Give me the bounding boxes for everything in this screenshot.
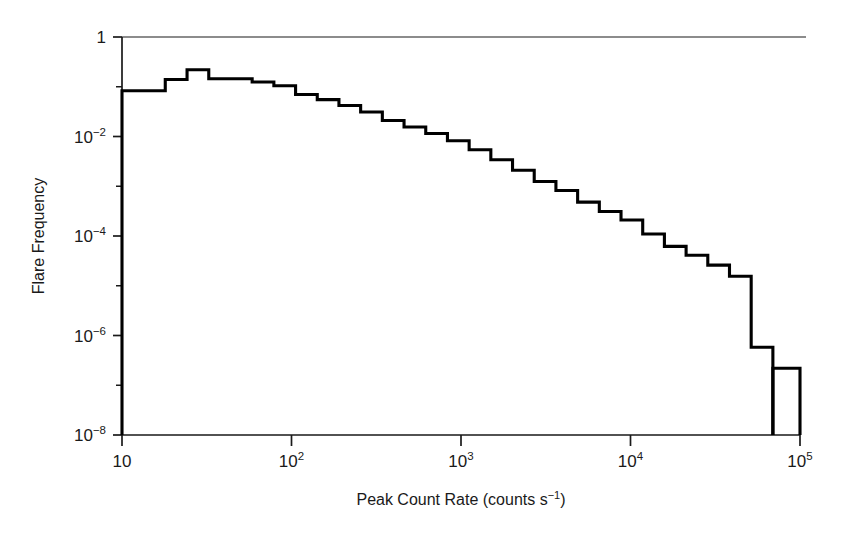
flare-frequency-chart: 110−210−410−610−810102103104105 Peak Cou…: [0, 0, 856, 533]
y-axis-title: Flare Frequency: [30, 178, 47, 295]
figure-container: 110−210−410−610−810102103104105 Peak Cou…: [0, 0, 856, 533]
y-tick-label-0: 1: [97, 28, 106, 47]
x-tick-label-0: 10: [113, 452, 132, 471]
x-axis-title: Peak Count Rate (counts s−1): [356, 489, 565, 508]
